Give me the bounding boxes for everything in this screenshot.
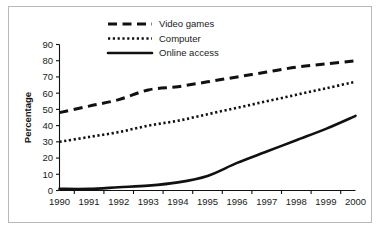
y-tick-label: 0 bbox=[48, 185, 53, 196]
y-tick-label: 70 bbox=[42, 71, 53, 82]
y-tick-label: 30 bbox=[42, 136, 53, 147]
x-tick-label: 1998 bbox=[286, 196, 307, 207]
legend-label-video-games: Video games bbox=[159, 18, 215, 29]
y-tick-label: 80 bbox=[42, 55, 53, 66]
y-tick-label: 10 bbox=[42, 169, 53, 180]
x-tick-label: 1997 bbox=[256, 196, 277, 207]
y-tick-label: 50 bbox=[42, 104, 53, 115]
series-line-online-access bbox=[60, 116, 356, 189]
x-tick-label: 1992 bbox=[108, 196, 129, 207]
y-tick-label: 90 bbox=[42, 39, 53, 50]
series-line-computer bbox=[60, 82, 356, 142]
x-tick-label: 1993 bbox=[138, 196, 159, 207]
y-tick-label: 60 bbox=[42, 88, 53, 99]
x-tick-label: 1999 bbox=[315, 196, 336, 207]
x-tick-label: 1991 bbox=[79, 196, 100, 207]
x-tick-label: 1995 bbox=[197, 196, 218, 207]
x-tick-label: 1994 bbox=[167, 196, 188, 207]
legend-label-computer: Computer bbox=[159, 33, 201, 44]
legend-label-online-access: Online access bbox=[159, 47, 219, 58]
y-axis-tick-labels: 0102030405060708090 bbox=[42, 39, 53, 196]
x-tick-label: 2000 bbox=[345, 196, 366, 207]
y-axis-title: Percentage bbox=[22, 92, 33, 143]
y-tick-label: 40 bbox=[42, 120, 53, 131]
x-tick-label: 1990 bbox=[49, 196, 70, 207]
x-axis-tick-labels: 1990199119921993199419951996199719981999… bbox=[49, 196, 366, 207]
chart-legend: Video gamesComputerOnline access bbox=[108, 18, 219, 58]
chart-figure: 0102030405060708090 19901991199219931994… bbox=[0, 0, 380, 231]
series-line-video-games bbox=[60, 61, 356, 113]
x-tick-label: 1996 bbox=[227, 196, 248, 207]
y-tick-label: 20 bbox=[42, 152, 53, 163]
data-series-group bbox=[60, 61, 356, 189]
line-chart: 0102030405060708090 19901991199219931994… bbox=[0, 0, 380, 231]
